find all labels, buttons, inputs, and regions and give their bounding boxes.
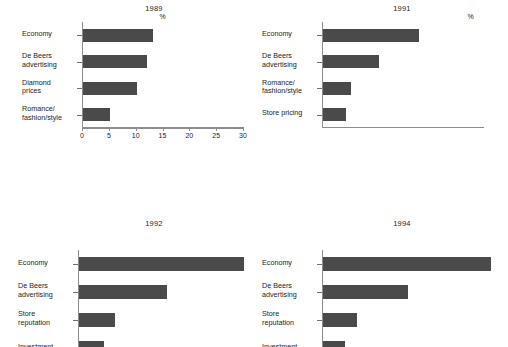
bar-row [322, 250, 488, 347]
category-label-line: Investment [18, 343, 74, 347]
category-label: Economy [22, 30, 78, 39]
bar [83, 108, 110, 121]
bar-rows [82, 22, 244, 128]
bar-row [322, 22, 484, 128]
chart-title: 1989 [0, 4, 254, 13]
chart-panel-1989: 1989 051015202530 % EconomyDe Beersadver… [0, 0, 254, 175]
bar [323, 341, 345, 347]
bar-rows [322, 250, 488, 347]
category-label-line: Economy [262, 259, 318, 268]
category-label-line: reputation [18, 319, 74, 328]
x-tick-label: 25 [212, 132, 220, 139]
chart-title: 1991 [254, 4, 508, 13]
bar [79, 341, 104, 347]
x-axis: 051015202530 [82, 128, 244, 146]
category-label: Store pricing [262, 109, 318, 118]
category-label: De Beersadvertising [18, 282, 74, 299]
category-label-line: reputation [262, 319, 318, 328]
plot-area [322, 250, 488, 347]
category-label-line: fashion/style [22, 114, 78, 123]
category-label: Economy [262, 259, 318, 268]
category-label-line: fashion/style [262, 87, 318, 96]
bar-rows [78, 250, 244, 347]
category-label: De Beersadvertising [262, 52, 318, 69]
category-label: Diamondprices [22, 79, 78, 96]
x-axis-line [82, 128, 244, 129]
chart-title: 1992 [0, 219, 254, 228]
x-tick-label: 5 [107, 132, 111, 139]
category-label-line: prices [22, 87, 78, 96]
chart-title: 1994 [254, 219, 508, 228]
plot-area [78, 250, 244, 347]
category-label: Storereputation [262, 310, 318, 327]
category-label-line: advertising [22, 61, 78, 70]
category-label: De Beersadvertising [262, 282, 318, 299]
category-label: Investment [262, 343, 318, 347]
x-tick-label: 30 [239, 132, 247, 139]
x-axis-label: % [159, 13, 165, 20]
x-axis-label: % [467, 13, 473, 20]
x-tick-label: 20 [185, 132, 193, 139]
x-tick-label: 10 [132, 132, 140, 139]
category-label-line: Investment [262, 343, 318, 347]
bar-row [78, 250, 244, 347]
bar-row [82, 22, 244, 128]
category-label-line: Economy [22, 30, 78, 39]
bar-rows [322, 22, 484, 128]
plot-area [322, 22, 484, 128]
category-label: Romance/fashion/style [22, 105, 78, 122]
category-label-line: Store pricing [262, 109, 318, 118]
bar [323, 108, 346, 121]
chart-panel-1994: 1994 EconomyDe BeersadvertisingStorerepu… [254, 215, 508, 347]
category-label: Storereputation [18, 310, 74, 327]
category-label: De Beersadvertising [22, 52, 78, 69]
category-label: Economy [18, 259, 74, 268]
category-label: Romance/fashion/style [262, 79, 318, 96]
chart-panel-1992: 1992 EconomyDe BeersadvertisingStorerepu… [0, 215, 254, 347]
plot-area [82, 22, 244, 128]
x-tick-label: 15 [159, 132, 167, 139]
chart-panel-1991: 1991 051015202530 % EconomyDe Beersadver… [254, 0, 508, 175]
category-label: Economy [262, 30, 318, 39]
x-tick-label: 0 [80, 132, 84, 139]
category-label: Investment [18, 343, 74, 347]
four-panel-bar-chart-figure: 1989 051015202530 % EconomyDe Beersadver… [0, 0, 508, 347]
category-label-line: Economy [18, 259, 74, 268]
category-label-line: Economy [262, 30, 318, 39]
category-label-line: advertising [18, 291, 74, 300]
category-label-line: advertising [262, 61, 318, 70]
category-label-line: advertising [262, 291, 318, 300]
